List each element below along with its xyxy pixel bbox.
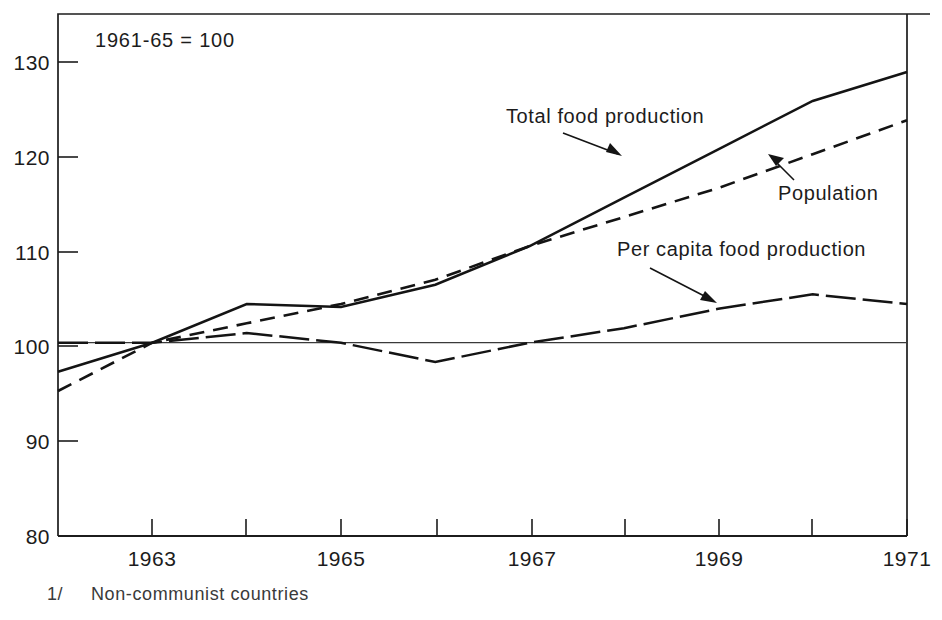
annotation-label-per-capita-food-production: Per capita food production [617, 238, 866, 260]
x-tick-label: 1967 [508, 547, 557, 570]
arrow-head-icon [606, 143, 622, 156]
annotation-per-capita-food-production: Per capita food production [617, 238, 866, 303]
y-tick-label: 80 [26, 525, 50, 548]
annotation-population: Population [768, 154, 879, 204]
y-tick-label: 130 [13, 51, 50, 74]
base-period-note: 1961-65 = 100 [95, 29, 235, 51]
series-total-food-production [58, 72, 907, 372]
y-axis-ticks [58, 62, 78, 441]
x-axis-ticks [152, 519, 907, 536]
x-tick-label: 1969 [695, 547, 744, 570]
y-axis-labels: 130 120 110 100 90 80 [13, 51, 50, 548]
y-tick-label: 90 [26, 430, 50, 453]
chart-figure: 130 120 110 100 90 80 1963 1965 1967 196… [0, 0, 942, 620]
arrow-head-icon [768, 154, 784, 166]
y-tick-label: 100 [13, 335, 50, 358]
chart-canvas: 130 120 110 100 90 80 1963 1965 1967 196… [0, 0, 942, 620]
annotation-label-total-food-production: Total food production [506, 105, 704, 127]
x-tick-label: 1965 [317, 547, 366, 570]
footnote-text: Non-communist countries [91, 584, 309, 604]
plot-frame [58, 14, 930, 536]
footnote-marker: 1/ [47, 584, 63, 604]
annotation-total-food-production: Total food production [506, 105, 704, 156]
footnote: 1/ Non-communist countries [47, 584, 309, 604]
x-tick-label: 1971 [883, 547, 932, 570]
x-tick-label: 1963 [128, 547, 177, 570]
x-axis-labels: 1963 1965 1967 1969 1971 [128, 547, 932, 570]
annotation-label-population: Population [778, 182, 879, 204]
y-tick-label: 110 [15, 241, 50, 264]
y-tick-label: 120 [13, 146, 50, 169]
arrow-head-icon [700, 291, 717, 303]
